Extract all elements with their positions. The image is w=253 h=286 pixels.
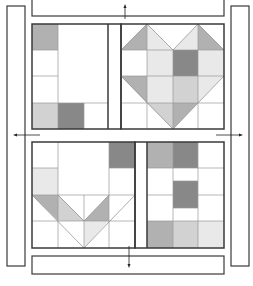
quilt-layout-diagram (0, 0, 253, 286)
block-letter-l (32, 24, 121, 129)
block-heart (121, 24, 224, 129)
block-letter-e (135, 142, 224, 248)
sashing-top (32, 0, 224, 16)
block-letter-v (32, 142, 135, 248)
